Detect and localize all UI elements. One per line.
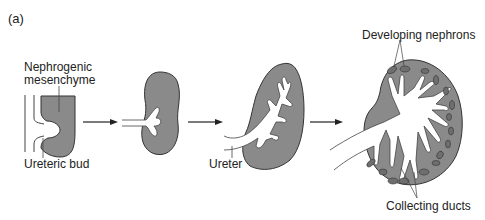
stage-4 [330,40,462,198]
stage-3 [224,63,304,169]
kidney-development-diagram [0,0,485,220]
stage-2 [122,72,179,155]
arrow-2 [188,119,223,125]
arrow-1 [83,119,118,125]
arrow-3 [310,119,343,125]
stage-1 [25,86,75,158]
